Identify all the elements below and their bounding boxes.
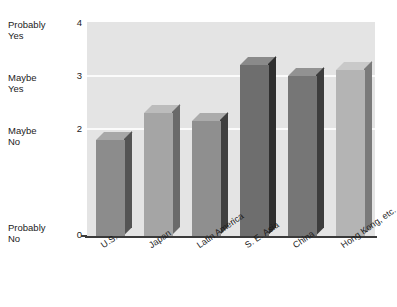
y-axis-tick-mark-0 (81, 235, 87, 237)
bar-front-face (144, 113, 173, 236)
y-axis-tick-4: 4 (68, 18, 82, 28)
bar-side-face (364, 61, 373, 236)
bar-s-e-asia (240, 65, 269, 236)
bar-side-face (124, 131, 133, 236)
bar-side-face (220, 112, 229, 236)
y-axis-label-maybe-no: Maybe No (8, 125, 62, 147)
bar-side-face (268, 56, 277, 236)
y-axis-tick-column: 4 3 2 0 (62, 0, 82, 307)
bar-front-face (96, 140, 125, 236)
y-axis-tick-3: 3 (68, 71, 82, 81)
gridline-3 (87, 75, 375, 77)
bar-side-face (316, 67, 325, 237)
bar-front-face (288, 76, 317, 237)
plot-area (87, 22, 375, 236)
bar-front-face (240, 65, 269, 236)
bar-japan (144, 113, 173, 236)
bar-front-face (336, 70, 365, 236)
bar-china (288, 76, 317, 237)
y-axis-tick-2: 2 (68, 124, 82, 134)
bar-latin-america (192, 121, 221, 236)
bar-chart: 4 3 2 0 Probably Yes Maybe Yes Maybe No … (0, 0, 397, 307)
bar-hong-kong-etc (336, 70, 365, 236)
gridline-2 (87, 128, 375, 130)
y-axis-label-maybe-yes: Maybe Yes (8, 72, 62, 94)
bar-side-face (172, 104, 181, 236)
y-axis-label-probably-yes: Probably Yes (8, 19, 62, 41)
bar-u-s (96, 140, 125, 236)
x-axis-line (85, 236, 377, 238)
bar-front-face (192, 121, 221, 236)
y-axis-tick-0: 0 (68, 230, 82, 240)
y-axis-label-probably-no: Probably No (8, 222, 62, 244)
